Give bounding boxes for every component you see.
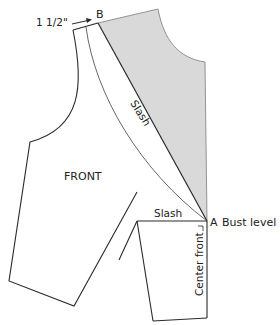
measurement-label: 1 1/2" <box>36 16 68 28</box>
point-a-label: A <box>210 216 218 229</box>
lower-left-edge <box>119 221 137 260</box>
lower-panel-left <box>137 221 153 321</box>
right-angle-marker <box>198 226 203 231</box>
arrow-head-icon <box>86 18 92 23</box>
shaded-region <box>98 9 207 221</box>
front-outline-left <box>9 30 137 306</box>
point-b-label: B <box>96 8 104 21</box>
bust-level-label: Bust level <box>222 216 276 229</box>
center-front-label: Center front <box>193 232 205 296</box>
center-front-bottom <box>153 318 207 321</box>
top-edge <box>73 23 98 30</box>
slash-horizontal-label: Slash <box>154 207 182 219</box>
pattern-diagram: 1 1/2" B FRONT Slash Slash A Bust level … <box>0 0 280 325</box>
front-label: FRONT <box>64 170 102 183</box>
